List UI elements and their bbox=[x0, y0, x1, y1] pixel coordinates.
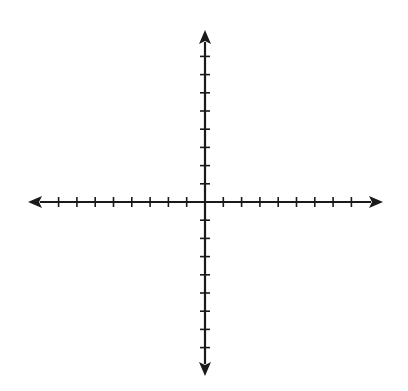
arrow-up-icon bbox=[199, 30, 211, 44]
arrow-down-icon bbox=[199, 362, 211, 376]
arrow-right-icon bbox=[369, 196, 383, 208]
arrow-left-icon bbox=[28, 196, 42, 208]
coordinate-plane bbox=[0, 0, 408, 391]
